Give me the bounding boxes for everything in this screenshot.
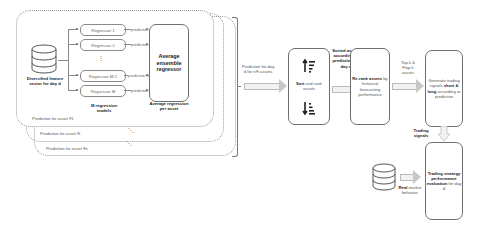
evaluation-box: Trading strategy performance evaluation … [425, 142, 463, 220]
arrow-to-evaluation [437, 126, 451, 142]
arrow-to-sort [244, 79, 287, 93]
regressor-1: Regressor 1 [80, 24, 126, 36]
ensemble-caption: Average regression per asset [148, 101, 190, 111]
regressor-2: Regressor 2 [80, 39, 126, 51]
diag-dots-2: ⋱ [126, 141, 132, 146]
database-icon [30, 44, 58, 74]
ensemble-regressor-label: Average ensemble regressor [150, 53, 188, 72]
feature-vector-label: Diversified feature vector for day d [20, 76, 70, 86]
regressor-1-label: Regressor 1 [91, 28, 114, 33]
arrow-head [76, 43, 79, 45]
asset-layer-n-label: Prediction for asset §n [46, 146, 88, 151]
regressor-m-label: Regressor M [91, 89, 116, 94]
models-caption: M regression models [88, 103, 120, 113]
signals-box: Generate trading signals short & long ac… [425, 50, 463, 127]
arrow3-label: Top k & Flop k assets [398, 60, 418, 76]
rerank-box: Re-rank assets by historical forecasting… [350, 48, 390, 125]
arrow-market-to-eval [400, 170, 421, 184]
diag-dots-1: ⋱ [128, 128, 134, 133]
sort-rank-box: Sort and rank assets [288, 48, 330, 125]
ensemble-regressor-box: Average ensemble regressor [149, 24, 189, 102]
arrow-head [76, 74, 79, 76]
market-database-icon [371, 163, 397, 191]
signals-label: Generate trading signals short & long ac… [426, 78, 462, 99]
arrow-to-signals [392, 79, 424, 93]
sort-rank-label: Sort and rank assets [291, 81, 327, 91]
arrow-head [76, 89, 79, 91]
bracket-tick [237, 86, 241, 87]
vertical-dots: ⋮ [98, 56, 104, 61]
bracket [232, 17, 238, 157]
arrow4-label: Trading signals [410, 128, 432, 138]
fan-vertical [68, 29, 69, 90]
db-connector [58, 60, 68, 61]
arrow-head [76, 28, 79, 30]
sort-descending-icon [302, 59, 316, 73]
asset-layer-i-label: Prediction for asset §i [40, 131, 80, 136]
market-label: Real market behavior [398, 185, 422, 195]
regressor-m-1: Regressor M-1 [80, 70, 126, 82]
evaluation-label: Trading strategy performance evaluation … [426, 171, 462, 192]
regressor-m-1-label: Regressor M-1 [89, 74, 117, 79]
asset-layer-1-label: Prediction for asset §1 [32, 116, 74, 121]
arrow1-label: Prediction for day d for n§i assets [240, 64, 276, 74]
rerank-label: Re-rank assets by historical forecasting… [351, 76, 389, 97]
regressor-2-label: Regressor 2 [91, 43, 114, 48]
sort-ascending-icon [302, 101, 316, 115]
regressor-m: Regressor M [80, 85, 126, 97]
